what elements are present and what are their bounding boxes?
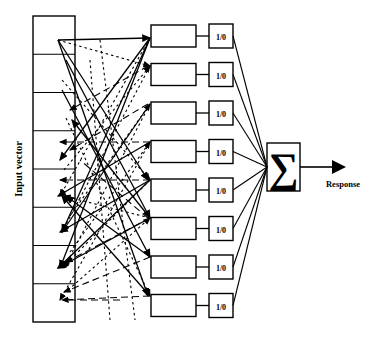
input-vector-column[interactable] — [33, 16, 75, 322]
output-node-label: 1/0 — [216, 226, 226, 235]
hidden-layer — [151, 25, 196, 317]
hidden-node[interactable] — [151, 102, 196, 124]
connection-lines — [58, 38, 150, 320]
output-layer: 1/0 1/0 1/0 1/0 1/0 1/0 1/0 1/0 — [209, 24, 233, 318]
response-label: Response — [326, 179, 360, 189]
output-node-label: 1/0 — [216, 149, 226, 158]
response-arrow — [300, 160, 346, 174]
hidden-node[interactable] — [151, 295, 196, 317]
response-arrow-head — [332, 160, 346, 174]
neural-network-diagram: Input vector — [0, 0, 370, 337]
output-node-label: 1/0 — [216, 110, 226, 119]
hidden-node[interactable] — [151, 256, 196, 278]
output-node-label: 1/0 — [216, 33, 226, 42]
hidden-node[interactable] — [151, 25, 196, 47]
hidden-node[interactable] — [151, 218, 196, 240]
hidden-node[interactable] — [151, 179, 196, 201]
output-node-label: 1/0 — [216, 264, 226, 273]
input-vector-label: Input vector — [13, 141, 24, 197]
summation-fan-links — [233, 36, 267, 306]
summation-node[interactable]: ∑ — [267, 143, 300, 191]
hidden-node[interactable] — [151, 141, 196, 163]
figure-canvas: Input vector — [0, 0, 370, 337]
output-node-label: 1/0 — [216, 187, 226, 196]
output-node-label: 1/0 — [216, 72, 226, 81]
summation-symbol: ∑ — [269, 145, 299, 191]
hidden-node[interactable] — [151, 64, 196, 86]
hidden-output-links — [196, 36, 209, 306]
output-node-label: 1/0 — [216, 303, 226, 312]
